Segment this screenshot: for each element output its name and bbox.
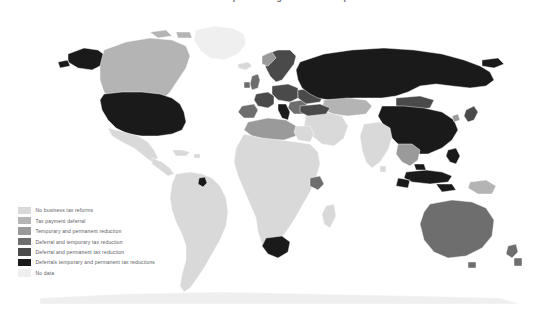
legend-swatch-deferral-and-temporary-tax-reduction xyxy=(18,238,31,245)
legend-label-no-data: No data xyxy=(36,270,55,276)
legend-item-deferral-and-temporary-tax-reduction[interactable]: Deferral and temporary tax reduction xyxy=(18,237,155,245)
legend-item-deferrals-temporary-and-permanent-tax-reductions[interactable]: Deferrals temporary and permanent tax re… xyxy=(18,258,155,266)
legend-label-deferrals-temporary-and-permanent-tax-reductions: Deferrals temporary and permanent tax re… xyxy=(36,259,156,265)
legend-item-no-business-tax-reforms[interactable]: No business tax reforms xyxy=(18,206,155,214)
legend-item-tax-payment-deferral[interactable]: Tax payment deferral xyxy=(18,216,155,224)
legend-label-deferral-and-permanent-tax-reduction: Deferral and permanent tax reduction xyxy=(36,249,125,255)
legend-item-no-data[interactable]: No data xyxy=(18,269,155,277)
region-tasmania xyxy=(468,262,476,268)
legend-swatch-temporary-and-permanent-reduction xyxy=(18,227,31,234)
legend-label-no-business-tax-reforms: No business tax reforms xyxy=(36,207,94,213)
legend-swatch-no-business-tax-reforms xyxy=(18,207,31,214)
region-malaysia xyxy=(414,164,426,170)
world-choropleth-figure: Tax measures adopted during the COVID-19… xyxy=(0,0,541,311)
legend-swatch-deferral-and-permanent-tax-reduction xyxy=(18,248,31,255)
legend-item-deferral-and-permanent-tax-reduction[interactable]: Deferral and permanent tax reduction xyxy=(18,248,155,256)
page-title: Tax measures adopted during the COVID-19… xyxy=(0,0,541,2)
legend-label-tax-payment-deferral: Tax payment deferral xyxy=(36,218,86,224)
legend-swatch-tax-payment-deferral xyxy=(18,217,31,224)
legend-label-temporary-and-permanent-reduction: Temporary and permanent reduction xyxy=(36,228,122,234)
legend-swatch-no-data xyxy=(18,269,31,276)
region-sri-lanka xyxy=(380,166,386,172)
legend-swatch-deferrals-temporary-and-permanent-tax-reductions xyxy=(18,259,31,266)
legend-item-temporary-and-permanent-reduction[interactable]: Temporary and permanent reduction xyxy=(18,227,155,235)
map-legend: No business tax reforms Tax payment defe… xyxy=(18,206,155,277)
legend-label-deferral-and-temporary-tax-reduction: Deferral and temporary tax reduction xyxy=(36,239,123,245)
